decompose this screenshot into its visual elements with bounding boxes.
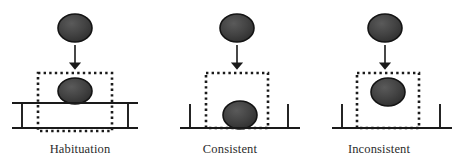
figure-canvas xyxy=(0,0,458,165)
stimulus-figure: Habituation Consistent Inconsistent xyxy=(0,0,458,165)
resting-ball-habituation xyxy=(58,78,92,104)
panel-label-inconsistent: Inconsistent xyxy=(300,143,458,156)
panel-label-consistent: Consistent xyxy=(160,143,300,156)
panel-consistent xyxy=(180,14,300,129)
falling-ball-habituation xyxy=(58,14,92,42)
ground-support-inconsistent xyxy=(332,104,452,129)
falling-ball-inconsistent xyxy=(368,14,402,42)
panel-label-habituation: Habituation xyxy=(0,143,160,156)
falling-ball-consistent xyxy=(220,14,254,42)
table-support-habituation xyxy=(12,102,138,129)
resting-ball-consistent xyxy=(223,101,257,129)
panel-habituation xyxy=(12,14,138,131)
panel-inconsistent xyxy=(332,14,452,129)
floating-ball-inconsistent xyxy=(371,78,405,106)
